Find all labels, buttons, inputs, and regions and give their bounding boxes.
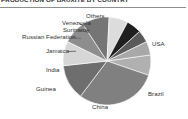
pie-chart-page: PRODUCTION OF BAUXITE BY COUNTRY Others … bbox=[0, 0, 188, 119]
pie-label-guinea: Guinea bbox=[36, 85, 56, 92]
pie-label-venezuela: Venezuela bbox=[62, 19, 91, 26]
page-title: PRODUCTION OF BAUXITE BY COUNTRY bbox=[1, 0, 129, 3]
pie-label-others: Others bbox=[86, 12, 105, 19]
pie-label-brazil: Brazil bbox=[148, 90, 164, 97]
pie-label-russian-federation: Russian Federation bbox=[22, 33, 76, 40]
chart-area: Others Venezuela Suriname Russian Federa… bbox=[0, 9, 188, 119]
document-header: PRODUCTION OF BAUXITE BY COUNTRY bbox=[0, 0, 188, 9]
leader-line-jamaica bbox=[68, 50, 76, 51]
pie-label-india: India bbox=[46, 66, 59, 73]
pie-label-jamaica: Jamaica bbox=[46, 47, 69, 54]
header-divider bbox=[0, 7, 186, 9]
pie-label-china: China bbox=[92, 103, 108, 110]
pie-label-suriname: Suriname bbox=[63, 26, 89, 33]
pie-label-usa: USA bbox=[152, 40, 165, 47]
